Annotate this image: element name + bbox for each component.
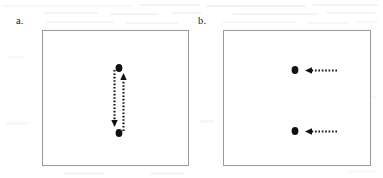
panel-b-upper-dot [292,66,299,74]
panel-a-top-dot [116,64,123,72]
panel-a-down-arrow [111,70,117,127]
panel-b-lower-left-arrow [305,128,337,134]
panel-a-bottom-dot [116,129,123,137]
panel-a-up-arrow [120,73,126,131]
diagram-vector-layer [0,0,383,178]
arrow-head [111,120,117,127]
arrow-head [305,128,312,134]
arrow-head [120,73,126,80]
figure-root: a. b. [0,0,383,178]
panel-b-lower-dot [292,127,299,135]
arrow-head [305,67,312,73]
panel-b-upper-left-arrow [305,67,337,73]
